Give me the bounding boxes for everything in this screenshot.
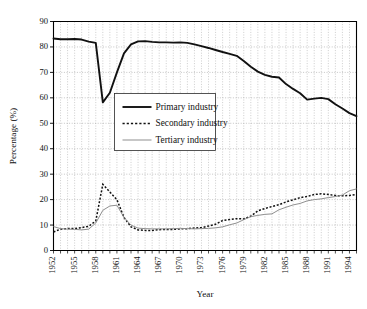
- x-axis-tick-label: 1964: [132, 256, 142, 274]
- x-axis-tick-label: 1985: [280, 257, 290, 274]
- line-chart: 0102030405060708090195219551958196119641…: [0, 0, 367, 309]
- x-axis-tick-label: 1955: [69, 257, 79, 274]
- x-axis-tick-label: 1988: [301, 257, 311, 274]
- x-axis-tick-label: 1961: [111, 257, 121, 274]
- x-axis-tick-label: 1973: [195, 257, 205, 274]
- y-axis-title: Percentage (%): [8, 108, 18, 164]
- legend-label-tertiary-industry: Tertiary industry: [156, 135, 218, 145]
- chart-canvas: 0102030405060708090195219551958196119641…: [0, 0, 367, 309]
- y-axis-tick-label: 10: [39, 220, 48, 230]
- x-axis-tick-label: 1979: [238, 257, 248, 274]
- x-axis-tick-label: 1952: [47, 257, 57, 274]
- y-axis-tick-label: 90: [39, 16, 48, 26]
- x-axis-tick-label: 1991: [322, 257, 332, 274]
- x-axis-tick-label: 1982: [259, 257, 269, 274]
- y-axis-tick-label: 80: [39, 41, 48, 51]
- x-axis-tick-label: 1958: [90, 257, 100, 274]
- legend-label-primary-industry: Primary industry: [156, 102, 219, 112]
- y-axis-tick-label: 0: [44, 245, 48, 255]
- y-axis-tick-label: 60: [39, 92, 48, 102]
- y-axis-tick-label: 50: [39, 118, 48, 128]
- x-axis-title: Year: [197, 289, 214, 299]
- chart-container: 0102030405060708090195219551958196119641…: [0, 0, 367, 309]
- x-axis-tick-label: 1970: [174, 257, 184, 274]
- x-axis-tick-label: 1976: [217, 256, 227, 274]
- x-axis-tick-label: 1967: [153, 256, 163, 274]
- y-axis-tick-label: 40: [39, 143, 48, 153]
- series-line-secondary-industry: [54, 184, 357, 232]
- series-line-tertiary-industry: [54, 189, 357, 230]
- y-axis-tick-label: 30: [39, 169, 48, 179]
- x-axis-tick-label: 1994: [343, 256, 353, 274]
- legend-label-secondary-industry: Secondary industry: [156, 118, 228, 128]
- y-axis-tick-label: 70: [39, 67, 48, 77]
- y-axis-tick-label: 20: [39, 194, 48, 204]
